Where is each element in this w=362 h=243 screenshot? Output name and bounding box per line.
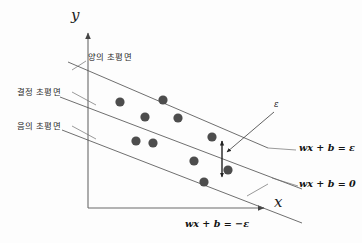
data-point bbox=[131, 136, 140, 145]
data-point bbox=[199, 177, 208, 186]
data-point bbox=[207, 132, 216, 141]
y-axis-label: y bbox=[71, 6, 79, 24]
data-point bbox=[173, 113, 182, 122]
upper-hyperplane-equation: wx + b = ε bbox=[299, 142, 355, 153]
positive-hyperplane-line bbox=[68, 62, 268, 148]
negative-label-leader bbox=[72, 126, 96, 139]
upper-equation-leader bbox=[268, 148, 296, 150]
lower-equation-leader bbox=[247, 184, 268, 196]
lower-hyperplane-equation: wx + b = −ε bbox=[185, 218, 249, 229]
middle-hyperplane-equation: wx + b = 0 bbox=[299, 178, 356, 189]
positive-hyperplane-label: 양의 초평면 bbox=[88, 50, 132, 62]
svr-hyperplane-figure: y x 양의 초평면 결정 초평면 음의 초평면 ε wx + b = ε wx… bbox=[0, 0, 362, 243]
negative-hyperplane-line bbox=[62, 130, 302, 223]
data-point bbox=[148, 138, 157, 147]
data-point bbox=[140, 112, 149, 121]
data-point bbox=[189, 156, 198, 165]
epsilon-label: ε bbox=[274, 99, 279, 109]
decision-hyperplane-label: 결정 초평면 bbox=[17, 85, 61, 97]
data-point bbox=[223, 165, 232, 174]
middle-equation-leader bbox=[272, 178, 298, 186]
data-point bbox=[115, 97, 124, 106]
data-point bbox=[158, 95, 167, 104]
x-axis-label: x bbox=[274, 193, 282, 211]
negative-hyperplane-label: 음의 초평면 bbox=[17, 119, 61, 131]
epsilon-leader-line bbox=[227, 112, 274, 152]
